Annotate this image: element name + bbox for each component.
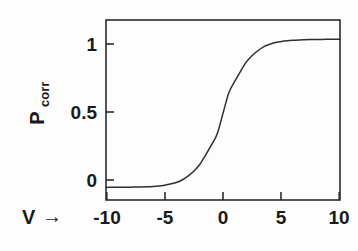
x-tick-label-3: 5 xyxy=(276,207,287,228)
x-tick-label-0: -10 xyxy=(93,207,120,228)
y-axis-title: P corr xyxy=(26,82,52,125)
sigmoid-chart: -10 -5 0 5 10 0 0.5 1 P corr V → xyxy=(0,0,358,251)
y-axis-title-base: P xyxy=(26,111,48,124)
y-tick-labels: 0 0.5 1 xyxy=(71,34,98,191)
y-tick-label-0: 0 xyxy=(86,170,97,191)
y-tick-label-1: 0.5 xyxy=(71,102,98,123)
x-tick-labels: -10 -5 0 5 10 xyxy=(93,207,349,228)
x-axis-title-arrow-icon: → xyxy=(42,205,62,227)
data-series-group xyxy=(106,39,340,187)
sigmoid-curve xyxy=(106,39,340,187)
x-axis-ticks xyxy=(107,192,339,200)
y-axis-title-subscript: corr xyxy=(37,82,52,107)
x-axis-title-symbol: V xyxy=(22,206,36,228)
y-axis-ticks xyxy=(106,44,114,180)
x-tick-label-4: 10 xyxy=(328,207,349,228)
figure-container: -10 -5 0 5 10 0 0.5 1 P corr V → xyxy=(0,0,358,251)
x-tick-label-1: -5 xyxy=(157,207,174,228)
x-axis-title: V → xyxy=(22,205,62,228)
plot-frame xyxy=(106,20,340,200)
y-tick-label-2: 1 xyxy=(86,34,97,55)
x-tick-label-2: 0 xyxy=(218,207,229,228)
